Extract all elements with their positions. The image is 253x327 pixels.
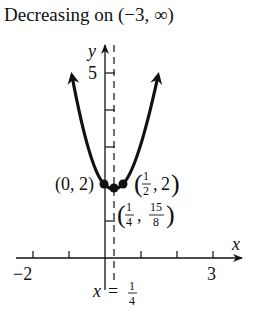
- svg-text:4: 4: [126, 215, 132, 229]
- svg-text:1: 1: [129, 279, 135, 293]
- parabola-right-branch: [123, 76, 158, 184]
- svg-text:15: 15: [150, 200, 162, 214]
- point-half-2: [119, 180, 128, 189]
- svg-text:): ): [166, 200, 175, 229]
- svg-text:=: =: [108, 281, 118, 301]
- x-tick-label-3: 3: [207, 264, 216, 284]
- svg-text:1: 1: [143, 169, 149, 183]
- svg-text:2: 2: [161, 174, 170, 194]
- point-label-half-2: ( 1 2 , 2 ): [134, 169, 180, 198]
- point-label-vertex: ( 1 4 , 15 8 ): [117, 200, 175, 229]
- svg-text:2: 2: [143, 184, 149, 198]
- parabola-left-branch: [72, 76, 104, 184]
- svg-text:(: (: [117, 200, 126, 229]
- point-label-0-2: (0, 2): [55, 174, 94, 195]
- svg-text:8: 8: [153, 215, 159, 229]
- x-tick-label-neg2: −2: [13, 264, 32, 284]
- symmetry-line-label: x = 1 4: [92, 279, 137, 308]
- svg-text:(: (: [134, 169, 143, 198]
- x-axis-label: x: [231, 234, 240, 254]
- svg-text:x: x: [92, 281, 101, 301]
- x-ticks: [33, 251, 213, 258]
- svg-text:,: ,: [153, 174, 158, 194]
- svg-text:4: 4: [129, 294, 135, 308]
- y-tick-label-5: 5: [88, 63, 97, 83]
- svg-text:,: ,: [137, 205, 142, 225]
- svg-text:1: 1: [126, 200, 132, 214]
- chart-plot: y x 5 −2 3 (0, 2) ( 1 2 , 2 ) ( 1 4 , 15…: [0, 0, 253, 327]
- point-vertex: [110, 184, 119, 193]
- svg-text:): ): [171, 169, 180, 198]
- point-0-2: [100, 180, 109, 189]
- y-axis-label: y: [86, 41, 96, 61]
